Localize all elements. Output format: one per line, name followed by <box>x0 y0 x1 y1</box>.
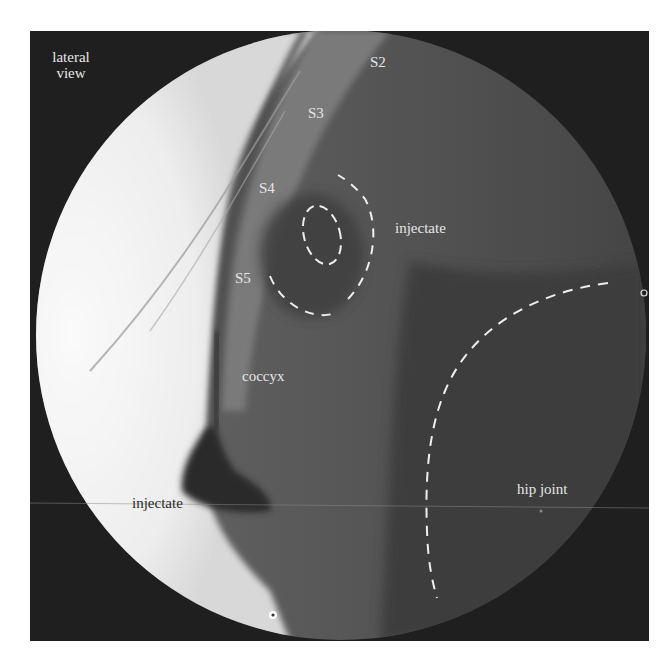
view-label: lateral view <box>48 49 94 81</box>
label-s4: S4 <box>259 180 275 196</box>
fluoroscopy-image-frame: lateral view S2 S3 S4 S5 injectate coccy… <box>30 31 649 641</box>
label-injectate-lower: injectate <box>132 495 183 511</box>
label-s2: S2 <box>370 54 386 70</box>
view-label-line-1: lateral <box>48 49 94 65</box>
view-label-line-2: view <box>48 65 94 81</box>
label-coccyx: coccyx <box>242 368 284 384</box>
label-hip-joint: hip joint <box>517 481 567 497</box>
label-s5: S5 <box>235 270 251 286</box>
label-s3: S3 <box>308 105 324 121</box>
label-injectate-upper: injectate <box>395 220 446 236</box>
hip-joint-dot <box>540 510 543 513</box>
fluoroscopy-image <box>30 31 649 641</box>
ring-marker-bottom <box>269 611 277 619</box>
